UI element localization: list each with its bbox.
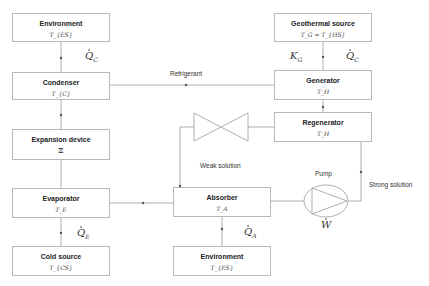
heat-generator-symbol: QC [346, 50, 359, 63]
weak-solution-label: Weak solution [200, 162, 241, 169]
throttle-valve-icon [194, 113, 248, 141]
box-subtitle: T_{ES} [13, 31, 109, 39]
generator-box: Generator T_H [274, 70, 372, 100]
box-subtitle: T_{CS} [13, 264, 109, 272]
evaporator-box: Evaporator T_E [12, 188, 110, 218]
cold-source-box: Cold source T_{CS} [12, 246, 110, 276]
heat-absorber-symbol: QA [244, 226, 257, 239]
condenser-box: Condenser T_{C} [12, 72, 110, 100]
strong-solution-label: Strong solution [369, 181, 412, 188]
box-subtitle: T_H [275, 88, 371, 96]
box-title: Condenser [13, 78, 109, 87]
hourglass-valve-icon: ⧖ [13, 147, 109, 155]
pump-work-symbol: W [321, 219, 331, 230]
pump-icon [304, 185, 348, 217]
box-subtitle: T_E [13, 206, 109, 214]
pump-label: Pump [315, 170, 332, 177]
heat-condenser-symbol: QC [85, 50, 98, 63]
absorber-box: Absorber T_A [173, 187, 271, 217]
geothermal-source-box: Geothermal source T_G = T_{HS} [274, 13, 372, 42]
box-title: Environment [13, 19, 109, 28]
box-title: Cold source [13, 252, 109, 261]
expansion-device-box: Expansion device ⧖ [12, 129, 110, 160]
box-title: Generator [275, 76, 371, 85]
refrigerant-label: Refrigerant [170, 70, 202, 77]
box-subtitle: T_H [275, 130, 371, 138]
box-title: Evaporator [13, 194, 109, 203]
geothermal-coefficient-symbol: KG [290, 50, 302, 63]
box-subtitle: T_{C} [13, 90, 109, 98]
environment-bottom-box: Environment T_{ES} [173, 246, 271, 276]
heat-evaporator-symbol: QE [77, 227, 90, 240]
box-title: Environment [174, 252, 270, 261]
regenerator-box: Regenerator T_H [274, 112, 372, 142]
box-subtitle: T_A [174, 205, 270, 213]
box-subtitle: T_{ES} [174, 264, 270, 272]
box-subtitle: T_G = T_{HS} [275, 31, 371, 39]
box-title: Absorber [174, 193, 270, 202]
box-title: Regenerator [275, 118, 371, 127]
box-title: Expansion device [13, 135, 109, 144]
box-title: Geothermal source [275, 19, 371, 28]
environment-top-box: Environment T_{ES} [12, 13, 110, 42]
absorption-cycle-diagram: Environment T_{ES} Condenser T_{C} Expan… [0, 0, 429, 286]
